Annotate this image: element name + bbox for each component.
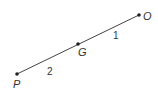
diagram-canvas: O 1 G 2 P [0,0,158,92]
ratio-label-pg: 2 [47,66,53,77]
ratio-label-go: 1 [113,30,119,41]
label-p: P [13,78,21,90]
label-g: G [78,46,87,58]
label-o: O [143,10,152,22]
point-o [137,13,141,17]
point-p [15,72,19,76]
